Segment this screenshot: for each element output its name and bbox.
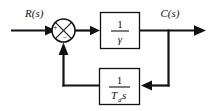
forward-block-denominator: γ — [118, 33, 123, 45]
summing-junction-minus-sign: − — [63, 33, 68, 42]
feedback-block-denominator-base: T — [111, 89, 118, 101]
reference-input-label: R(s) — [24, 7, 44, 20]
feedback-block-denominator-variable: s — [122, 89, 126, 101]
block-diagram-canvas: R(s) + − 1 γ C(s) — [0, 0, 215, 111]
feedback-takeoff-group — [141, 30, 170, 91]
output-arrowhead-icon — [194, 25, 206, 35]
output-wire-group — [140, 25, 207, 35]
error-arrowhead-icon — [90, 26, 100, 35]
feedback-input-arrowhead-icon — [141, 81, 152, 91]
controlled-output-label: C(s) — [161, 7, 180, 20]
summing-junction: + − — [52, 19, 75, 42]
error-wire-group — [75, 26, 100, 35]
feedback-transfer-function-block: 1 T d s — [100, 69, 140, 105]
input-wire-group — [11, 26, 56, 36]
forward-block-numerator: 1 — [117, 18, 123, 30]
summing-junction-plus-sign: + — [53, 23, 58, 32]
feedback-return-arrowhead-icon — [59, 43, 69, 56]
block-diagram-svg: R(s) + − 1 γ C(s) — [0, 0, 215, 111]
feedback-block-numerator: 1 — [117, 74, 123, 86]
forward-transfer-function-block: 1 γ — [101, 13, 140, 49]
feedback-return-group — [59, 43, 100, 87]
